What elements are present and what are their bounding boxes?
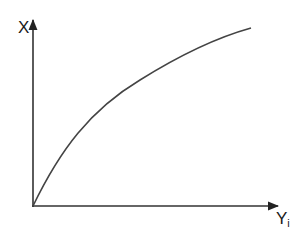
saturation-curve	[33, 28, 251, 206]
vertical-axis-label: X	[18, 18, 29, 38]
horizontal-axis-label: Yi	[276, 209, 290, 229]
diagram-canvas: X Yi	[0, 0, 302, 238]
horizontal-axis-label-subscript: i	[287, 217, 289, 229]
axes-and-curve	[0, 0, 302, 238]
horizontal-axis-label-main: Y	[276, 209, 287, 228]
